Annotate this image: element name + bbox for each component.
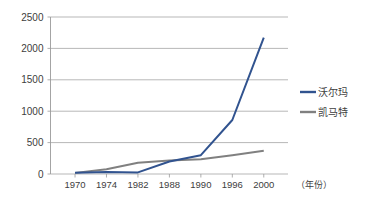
x-axis-tick-label: 2000 — [253, 179, 274, 190]
x-axis-tick-label: 1988 — [159, 179, 180, 190]
x-axis-title: （年份） — [296, 179, 332, 190]
y-axis-tick-label: 0 — [38, 169, 44, 180]
line-chart: 05001000150020002500 1970197419821988199… — [0, 0, 365, 208]
x-axis-tick-label: 1982 — [127, 179, 148, 190]
y-axis-tick-label: 2500 — [21, 12, 44, 23]
x-axis-tick-label: 1974 — [96, 179, 117, 190]
series-lines — [75, 38, 264, 173]
legend-label: 沃尔玛 — [318, 86, 348, 98]
y-axis-tick-label: 1500 — [21, 74, 44, 85]
x-axis-tick-label: 1990 — [190, 179, 211, 190]
chart-canvas: 05001000150020002500 1970197419821988199… — [0, 0, 365, 208]
y-axis-tick-labels: 05001000150020002500 — [21, 12, 44, 180]
y-axis-tick-label: 2000 — [21, 43, 44, 54]
legend-label: 凯马特 — [318, 106, 348, 118]
x-axis-tick-label: 1970 — [64, 179, 85, 190]
legend: 沃尔玛凯马特 — [300, 86, 348, 118]
x-axis-tick-marks — [75, 174, 264, 178]
x-axis-tick-label: 1996 — [222, 179, 243, 190]
y-axis-tick-label: 1000 — [21, 106, 44, 117]
x-axis-tick-labels: 1970197419821988199019962000 — [64, 179, 274, 190]
series-line-primary — [75, 38, 264, 173]
gridlines — [48, 17, 289, 174]
y-axis-tick-label: 500 — [27, 137, 44, 148]
